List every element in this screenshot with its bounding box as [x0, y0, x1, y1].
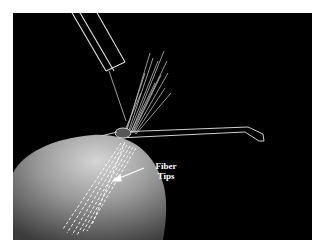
- micrograph-figure: Fiber Tips: [13, 13, 312, 240]
- label-line-2: Tips: [146, 171, 186, 181]
- dome-sample: [13, 135, 166, 240]
- fiber-bundle: [123, 51, 171, 135]
- micrograph-illustration: [13, 13, 312, 240]
- probe-arm: [101, 127, 264, 141]
- label-line-1: Fiber: [146, 161, 186, 171]
- fiber-tips-label: Fiber Tips: [146, 161, 186, 181]
- pipette: [71, 13, 126, 121]
